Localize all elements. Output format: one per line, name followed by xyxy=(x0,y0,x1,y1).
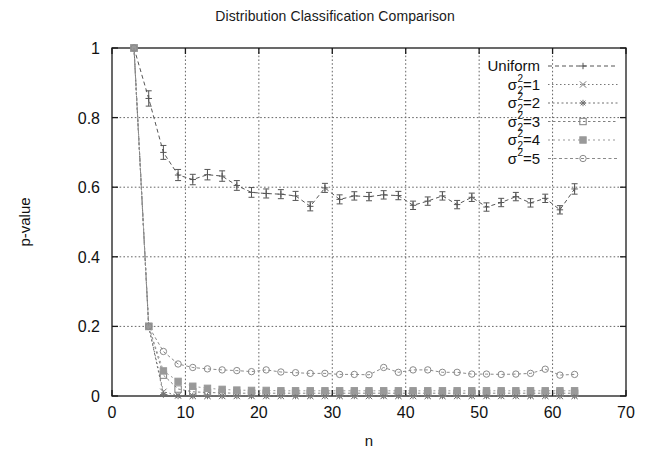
legend-label-eq-4: =4 xyxy=(523,131,540,148)
marker-filled-square xyxy=(322,388,328,394)
x-tick-label: 20 xyxy=(250,404,268,421)
legend-label-sigma-5: σ xyxy=(508,150,518,167)
marker-filled-square xyxy=(204,385,210,391)
marker-filled-square xyxy=(248,387,254,393)
legend-label-sup-5: 2 xyxy=(517,147,523,158)
legend-label-sup-3: 2 xyxy=(517,110,523,121)
marker-filled-square xyxy=(454,388,460,394)
chart-legend: Uniform=122σ=222σ=322σ=422σ=52σ xyxy=(487,57,618,167)
legend-label-0: Uniform xyxy=(487,57,540,74)
legend-label-eq-5: =5 xyxy=(523,150,540,167)
plot-border xyxy=(112,48,626,396)
marker-filled-square xyxy=(469,388,475,394)
gridlines xyxy=(112,48,626,396)
legend-label-eq-3: =3 xyxy=(523,113,540,130)
y-tick-label: 0.2 xyxy=(78,318,100,335)
marker-filled-square xyxy=(439,388,445,394)
x-tick-label: 70 xyxy=(617,404,635,421)
marker-filled-square xyxy=(234,387,240,393)
legend-label-sup-1: 2 xyxy=(517,73,523,84)
x-tick-label: 50 xyxy=(470,404,488,421)
y-tick-label: 0.8 xyxy=(78,110,100,127)
marker-filled-square xyxy=(483,388,489,394)
marker-filled-square xyxy=(395,388,401,394)
legend-label-eq-1: =1 xyxy=(523,76,540,93)
legend-label-sup-4: 2 xyxy=(517,128,523,139)
plot-area: 010203040506070 00.20.40.60.81 np-value … xyxy=(0,0,670,462)
legend-label-eq-2: =2 xyxy=(523,94,540,111)
marker-filled-square xyxy=(542,388,548,394)
marker-filled-square xyxy=(160,368,166,374)
marker-filled-square xyxy=(336,388,342,394)
marker-filled-square xyxy=(366,388,372,394)
marker-open-circle xyxy=(160,348,166,354)
marker-filled-square xyxy=(425,388,431,394)
legend-label-sigma-2: σ xyxy=(508,94,518,111)
legend-label-sigma-3: σ xyxy=(508,113,518,130)
x-tick-label: 40 xyxy=(397,404,415,421)
marker-filled-square xyxy=(351,388,357,394)
legend-label-sup-2: 2 xyxy=(517,91,523,102)
marker-filled-square xyxy=(580,137,586,143)
marker-filled-square xyxy=(410,388,416,394)
marker-filled-square xyxy=(263,387,269,393)
marker-filled-square xyxy=(292,388,298,394)
x-tick-label: 10 xyxy=(177,404,195,421)
y-axis-title: p-value xyxy=(16,197,33,246)
y-tick-label: 0.4 xyxy=(78,249,100,266)
x-tick-label: 60 xyxy=(544,404,562,421)
y-tick-label: 0.6 xyxy=(78,179,100,196)
legend-label-sigma-1: σ xyxy=(508,76,518,93)
marker-filled-square xyxy=(307,388,313,394)
x-tick-label: 30 xyxy=(323,404,341,421)
plot-frame xyxy=(112,48,626,396)
x-axis-ticks: 010203040506070 xyxy=(108,48,635,421)
marker-filled-square xyxy=(190,383,196,389)
axis-titles: np-value xyxy=(16,197,373,449)
x-axis-title: n xyxy=(365,432,373,449)
y-tick-label: 0 xyxy=(91,388,100,405)
marker-filled-square xyxy=(498,388,504,394)
chart-figure: Distribution Classification Comparison 0… xyxy=(0,0,670,462)
marker-filled-square xyxy=(557,388,563,394)
marker-filled-square xyxy=(571,388,577,394)
marker-filled-square xyxy=(513,388,519,394)
marker-filled-square xyxy=(527,388,533,394)
marker-filled-square xyxy=(278,388,284,394)
x-tick-label: 0 xyxy=(108,404,117,421)
y-tick-label: 1 xyxy=(91,40,100,57)
marker-filled-square xyxy=(175,378,181,384)
marker-filled-square xyxy=(219,386,225,392)
legend-label-sigma-4: σ xyxy=(508,131,518,148)
marker-filled-square xyxy=(380,388,386,394)
